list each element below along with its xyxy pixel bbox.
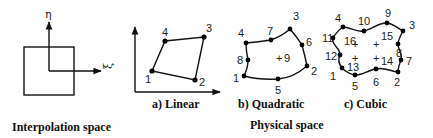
node-dot <box>353 73 358 78</box>
node-label: 14 <box>381 55 393 67</box>
node-label: 7 <box>406 55 412 67</box>
node-dot <box>300 43 305 48</box>
node-dot <box>244 41 249 46</box>
node-dot <box>288 27 293 32</box>
node-dot <box>340 66 345 71</box>
node-dot <box>385 21 390 26</box>
node-label: 6 <box>373 76 379 88</box>
linear-element: 1 2 3 4 a) Linear <box>135 22 220 111</box>
node-dot <box>201 34 206 39</box>
node-label: 4 <box>335 12 341 24</box>
element-diagram: η ξ Interpolation space 1 2 3 4 a) Linea… <box>0 0 433 138</box>
node-label: 7 <box>267 25 273 37</box>
node-label: 8 <box>237 54 243 66</box>
node-dot <box>396 70 401 75</box>
node-label: 10 <box>358 15 370 27</box>
node-dot <box>401 29 406 34</box>
node-label: 15 <box>381 30 393 42</box>
node-dot <box>374 67 379 72</box>
node-dot <box>341 25 346 30</box>
node-label: 12 <box>325 50 337 62</box>
node-label: 3 <box>409 19 415 31</box>
node-dot <box>192 77 197 82</box>
node-label: 1 <box>330 70 336 82</box>
node-dot <box>246 58 251 63</box>
node-label: 6 <box>306 36 312 48</box>
node-label: 16 <box>344 35 356 47</box>
node-dot <box>362 29 367 34</box>
interpolation-caption: Interpolation space <box>12 120 112 134</box>
node-label: 5 <box>352 80 358 92</box>
physical-caption: Physical space <box>250 118 324 132</box>
xi-label: ξ <box>102 63 115 69</box>
cubic-element: 1 2 3 4 5 6 7 8 9 10 11 12 + + + + 13 14… <box>322 7 415 111</box>
node-label: 9 <box>385 7 391 19</box>
node-label: 5 <box>275 84 281 96</box>
node-label: 3 <box>206 22 212 34</box>
cubic-caption: c) Cubic <box>344 97 388 111</box>
node-label: 1 <box>145 73 151 85</box>
quadratic-element: 1 2 3 4 5 6 7 8 + 9 b) Quadratic <box>233 10 317 111</box>
node-label: 4 <box>162 26 168 38</box>
node-label: 2 <box>199 76 205 88</box>
interior-marker: + <box>276 52 282 64</box>
node-label: 2 <box>394 76 400 88</box>
quadratic-caption: b) Quadratic <box>238 97 305 111</box>
node-dot <box>276 77 281 82</box>
node-label: 1 <box>233 72 239 84</box>
node-dot <box>269 38 274 43</box>
node-dot <box>396 42 401 47</box>
interior-marker: + <box>373 38 379 50</box>
node-label: 11 <box>322 32 333 44</box>
node-label: 9 <box>284 52 290 64</box>
node-label: 4 <box>238 27 244 39</box>
node-label: 8 <box>396 47 402 59</box>
node-dot <box>162 38 167 43</box>
node-dot <box>305 64 310 69</box>
node-label: 13 <box>347 61 359 73</box>
node-label: 2 <box>311 65 317 77</box>
interior-marker: + <box>373 52 379 64</box>
node-label: 3 <box>293 10 299 22</box>
eta-label: η <box>45 8 52 21</box>
interpolation-space: η ξ Interpolation space <box>12 8 115 134</box>
linear-caption: a) Linear <box>152 97 200 111</box>
linear-outline <box>152 37 204 80</box>
node-dot <box>242 74 247 79</box>
node-dot <box>338 53 343 58</box>
